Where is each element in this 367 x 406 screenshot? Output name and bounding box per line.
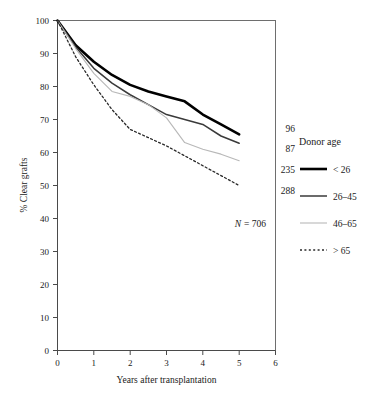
figure-container: 0 10 20 30 40 50 60 70 80 90 100 0 1 2 [0,0,367,406]
y-tick-label: 90 [40,49,50,59]
legend-title: Donor age [299,136,341,147]
x-axis-title: Years after transplantation [117,375,217,385]
y-axis-title: % Clear grafts [19,157,29,212]
x-tick-label: 6 [273,358,278,368]
y-tick-label: 70 [40,115,50,125]
endpoint-label-46-65: 235 [281,165,296,175]
legend-label-lt26: < 26 [333,165,350,175]
series-line-lt26 [58,21,240,135]
endpoint-label-gt65: 288 [281,186,296,196]
series-endpoint-labels: 96 87 235 288 [281,124,296,196]
y-tick-label: 20 [40,280,50,290]
y-tick-label: 50 [40,181,50,191]
legend-label-46-65: 46–65 [333,219,357,229]
y-tick-label: 10 [40,313,50,323]
y-axis-ticks [53,21,58,351]
y-tick-label: 30 [40,247,50,257]
plot-frame [58,21,276,351]
x-tick-label: 4 [201,358,206,368]
x-tick-label: 5 [237,358,242,368]
legend-item-gt65[interactable]: > 65 [300,246,350,256]
x-axis-tick-labels: 0 1 2 3 4 5 6 [55,358,278,368]
y-tick-label: 100 [36,16,50,26]
sample-size-symbol: N [234,219,242,229]
x-tick-label: 1 [92,358,97,368]
x-tick-label: 0 [55,358,60,368]
legend-item-26-45[interactable]: 26–45 [300,192,357,202]
legend: Donor age < 26 26–45 46–65 > 65 [299,136,357,256]
y-axis-tick-labels: 0 10 20 30 40 50 60 70 80 90 100 [36,16,50,356]
y-tick-label: 80 [40,82,50,92]
legend-item-lt26[interactable]: < 26 [300,165,350,175]
x-axis-ticks [58,351,276,356]
x-tick-label: 2 [128,358,133,368]
series-line-26-45 [58,21,240,144]
y-tick-label: 60 [40,148,50,158]
series-group [58,21,240,186]
survival-curve-chart: 0 10 20 30 40 50 60 70 80 90 100 0 1 2 [0,0,367,406]
endpoint-label-26-45: 87 [286,144,296,154]
series-line-gt65 [58,21,240,186]
x-tick-label: 3 [164,358,169,368]
sample-size-value: = 706 [244,219,266,229]
endpoint-label-lt26: 96 [286,124,296,134]
y-tick-label: 40 [40,214,50,224]
sample-size-annotation: N= 706 [234,219,267,229]
legend-label-26-45: 26–45 [333,192,357,202]
y-tick-label: 0 [45,346,50,356]
legend-label-gt65: > 65 [333,246,350,256]
legend-item-46-65[interactable]: 46–65 [300,219,357,229]
